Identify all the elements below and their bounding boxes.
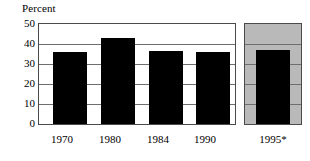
bars-projected — [245, 24, 301, 124]
bar-1984 — [149, 51, 183, 124]
bars-observed — [39, 24, 235, 124]
bar-1995 — [256, 50, 290, 124]
bar-1990 — [196, 52, 230, 124]
x-tick-label-1990: 1990 — [180, 133, 230, 145]
y-axis-tick-labels: 50 40 30 20 10 0 — [8, 0, 35, 161]
plot-area-observed — [38, 23, 236, 125]
bar-chart: Percent 50 40 30 20 10 0 — [0, 0, 310, 161]
y-tick-label-10: 10 — [24, 98, 35, 109]
x-tick-label-1995: 1995* — [248, 133, 298, 145]
y-tick-label-40: 40 — [24, 38, 35, 49]
y-tick-label-50: 50 — [24, 18, 35, 29]
x-tick-label-1980: 1980 — [85, 133, 135, 145]
x-tick-label-1984: 1984 — [133, 133, 183, 145]
y-tick-label-20: 20 — [24, 78, 35, 89]
x-tick-label-1970: 1970 — [37, 133, 87, 145]
plot-area-projected — [244, 23, 302, 125]
bar-1980 — [101, 38, 135, 124]
bar-1970 — [53, 52, 87, 124]
y-tick-label-0: 0 — [30, 118, 36, 129]
y-tick-label-30: 30 — [24, 58, 35, 69]
